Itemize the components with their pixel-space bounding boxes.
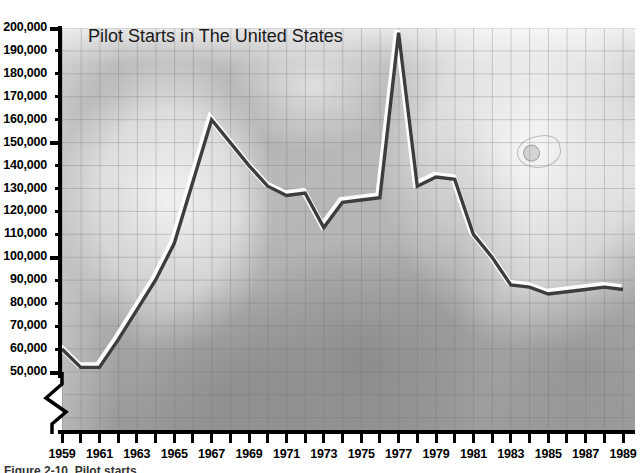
y-axis-tick: [55, 164, 62, 167]
y-axis-tick-label: 120,000: [3, 203, 47, 217]
y-axis-tick-label: 170,000: [3, 89, 47, 103]
x-axis-tick: [154, 434, 157, 443]
x-axis-tick: [378, 434, 381, 443]
x-axis-tick: [229, 434, 232, 443]
x-axis-tick: [266, 434, 269, 443]
y-axis-tick-label: 130,000: [3, 181, 47, 195]
y-axis-tick: [55, 279, 62, 282]
x-axis-tick-label: 1989: [609, 447, 636, 461]
x-axis-tick-label: 1965: [161, 447, 188, 461]
y-axis-tick-label: 110,000: [4, 226, 47, 240]
y-axis-tick-label: 90,000: [10, 272, 47, 286]
x-axis-tick-label: 1987: [572, 447, 599, 461]
y-axis-tick-label: 60,000: [10, 341, 47, 355]
chart-figure: Pilot Starts in The United States 50,000…: [0, 0, 643, 473]
x-axis-tick: [603, 434, 606, 443]
x-axis-tick: [248, 434, 251, 443]
x-axis-tick-label: 1969: [235, 447, 262, 461]
y-axis-tick: [55, 118, 62, 121]
x-axis-tick-label: 1963: [123, 447, 150, 461]
x-axis-tick-label: 1973: [310, 447, 337, 461]
x-axis-tick: [397, 434, 400, 443]
x-axis-tick: [135, 434, 138, 443]
x-axis-tick: [61, 434, 64, 443]
y-axis-tick-label: 190,000: [3, 43, 47, 57]
y-axis-tick-label: 100,000: [3, 249, 47, 263]
x-axis-tick: [435, 434, 438, 443]
y-axis-tick-label: 160,000: [3, 112, 47, 126]
data-series-pilot-starts: [62, 28, 635, 432]
y-axis-tick-label: 150,000: [3, 135, 47, 149]
x-axis-tick: [79, 434, 82, 443]
x-axis-tick-label: 1971: [273, 447, 300, 461]
x-axis-tick: [98, 434, 101, 443]
x-axis-tick-label: 1983: [497, 447, 524, 461]
y-axis-tick: [55, 49, 62, 52]
plot-area: [62, 28, 635, 432]
y-axis-tick: [50, 27, 62, 31]
y-axis-tick: [55, 233, 62, 236]
x-axis-tick: [453, 434, 456, 443]
chart-title: Pilot Starts in The United States: [88, 26, 343, 47]
y-axis-tick: [50, 141, 62, 145]
y-axis-tick: [50, 371, 62, 375]
y-axis-tick: [55, 210, 62, 213]
x-axis-tick: [341, 434, 344, 443]
y-axis-tick-label: 140,000: [3, 158, 47, 172]
y-axis-tick: [55, 302, 62, 305]
x-axis-tick: [509, 434, 512, 443]
series-line-highlight: [62, 30, 621, 365]
x-axis-tick: [117, 434, 120, 443]
x-axis-tick: [416, 434, 419, 443]
y-axis-tick: [55, 325, 62, 328]
x-axis-tick-label: 1979: [422, 447, 449, 461]
x-axis-tick-label: 1959: [48, 447, 75, 461]
y-axis-tick-label: 180,000: [3, 66, 47, 80]
x-axis-tick: [584, 434, 587, 443]
x-axis-tick: [322, 434, 325, 443]
x-axis-tick: [210, 434, 213, 443]
y-axis-break-icon: [40, 372, 80, 434]
y-axis-tick-label: 80,000: [10, 295, 47, 309]
x-axis-tick: [472, 434, 475, 443]
x-axis-tick: [491, 434, 494, 443]
x-axis-tick: [622, 434, 625, 443]
x-axis-tick: [528, 434, 531, 443]
x-axis-tick: [360, 434, 363, 443]
figure-caption: Figure 2-10. Pilot starts: [4, 464, 137, 473]
y-axis-tick: [55, 348, 62, 351]
x-axis-tick: [565, 434, 568, 443]
y-axis-tick: [55, 187, 62, 190]
x-axis-tick: [304, 434, 307, 443]
x-axis-tick: [191, 434, 194, 443]
x-axis-tick-label: 1975: [348, 447, 375, 461]
x-axis-tick-label: 1967: [198, 447, 225, 461]
y-axis-tick: [55, 95, 62, 98]
x-axis-tick-label: 1981: [460, 447, 487, 461]
x-axis-tick: [547, 434, 550, 443]
y-axis-tick-label: 70,000: [10, 318, 47, 332]
y-axis-tick: [50, 256, 62, 260]
x-axis-tick: [173, 434, 176, 443]
x-axis-tick-label: 1961: [86, 447, 113, 461]
x-axis-tick-label: 1977: [385, 447, 412, 461]
x-axis-tick-label: 1985: [535, 447, 562, 461]
x-axis-tick: [285, 434, 288, 443]
y-axis-tick-label: 200,000: [3, 20, 47, 34]
y-axis-tick: [55, 72, 62, 75]
